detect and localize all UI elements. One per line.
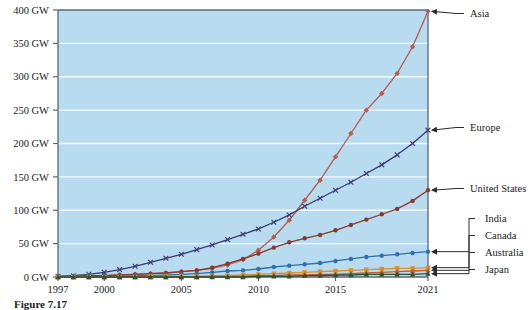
data-point-marker (241, 257, 245, 261)
data-point-marker (380, 212, 384, 216)
figure-caption: Figure 7.17 (14, 298, 67, 310)
data-point-marker (272, 265, 276, 269)
x-axis-tick-label: 2021 (418, 284, 439, 295)
y-axis-tick-label: 50 GW (18, 238, 49, 249)
data-point-marker (287, 263, 291, 267)
data-point-marker (333, 228, 337, 232)
y-axis-tick-label: 250 GW (13, 105, 49, 116)
data-point-marker (241, 268, 245, 272)
series-label-india: India (485, 213, 507, 224)
wind-capacity-line-chart: 0 GW50 GW100 GW150 GW200 GW250 GW300 GW3… (0, 0, 528, 310)
label-arrow (432, 11, 456, 13)
leader-bracket (469, 253, 475, 271)
y-axis-tick-label: 100 GW (13, 205, 49, 216)
data-point-marker (256, 267, 260, 271)
series-label-canada: Canada (485, 230, 517, 241)
data-point-marker (210, 265, 214, 269)
series-label-group-europe: Europe (432, 122, 501, 133)
data-point-marker (256, 251, 260, 255)
series-label-united-states: United States (470, 183, 526, 194)
series-label-asia: Asia (470, 8, 490, 19)
y-axis-tick-label: 400 GW (13, 5, 49, 16)
y-axis-tick-label: 150 GW (13, 172, 49, 183)
data-point-marker (349, 223, 353, 227)
data-point-marker (426, 188, 430, 192)
label-arrow (432, 189, 456, 191)
data-point-marker (410, 251, 414, 255)
x-axis-tick-label: 2010 (248, 284, 269, 295)
data-point-marker (410, 199, 414, 203)
data-point-marker (225, 261, 229, 265)
data-point-marker (426, 249, 430, 253)
y-axis-tick-label: 0 GW (24, 272, 49, 283)
x-axis-tick-label: 2000 (94, 284, 115, 295)
x-axis-tick-label: 2015 (325, 284, 346, 295)
y-axis-tick-label: 200 GW (13, 138, 49, 149)
series-label-group-united-states: United States (432, 183, 526, 194)
y-axis-tick-label: 350 GW (13, 38, 49, 49)
data-point-marker (333, 259, 337, 263)
data-point-marker (395, 207, 399, 211)
data-point-marker (349, 257, 353, 261)
series-label-australia: Australia (485, 247, 524, 258)
label-arrow (432, 128, 456, 131)
data-point-marker (395, 252, 399, 256)
chart-canvas: 0 GW50 GW100 GW150 GW200 GW250 GW300 GW3… (0, 0, 528, 310)
series-label-europe: Europe (470, 122, 501, 133)
data-point-marker (287, 240, 291, 244)
data-point-marker (272, 245, 276, 249)
data-point-marker (364, 217, 368, 221)
data-point-marker (302, 236, 306, 240)
data-point-marker (364, 255, 368, 259)
data-point-marker (225, 269, 229, 273)
data-point-marker (302, 262, 306, 266)
y-axis-tick-label: 300 GW (13, 71, 49, 82)
data-point-marker (380, 253, 384, 257)
x-axis-tick-label: 1997 (48, 284, 69, 295)
x-axis-tick-label: 2005 (171, 284, 192, 295)
leader-bracket (469, 236, 475, 268)
data-point-marker (318, 261, 322, 265)
leader-bracket (469, 270, 475, 274)
series-label-group-australia: Australia (432, 247, 524, 270)
series-label-group-japan: Japan (432, 264, 510, 275)
data-point-marker (318, 233, 322, 237)
series-label-japan: Japan (485, 264, 510, 275)
series-label-group-asia: Asia (432, 8, 490, 19)
